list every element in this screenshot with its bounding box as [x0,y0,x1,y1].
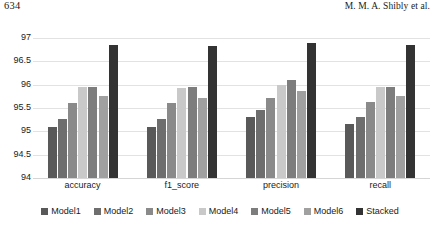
legend-label: Model5 [261,206,291,216]
bar [78,87,87,178]
legend-label: Model4 [209,206,239,216]
bar-group [232,38,331,178]
bar [266,98,275,178]
bar [177,88,186,178]
y-axis: 9796.59695.59594.594 [0,38,31,178]
bar [246,117,255,178]
legend-label: Model3 [156,206,186,216]
bar [366,102,375,178]
x-axis-tick-label: accuracy [33,180,132,196]
legend-label: Model1 [51,206,81,216]
y-axis-tick-label: 95.5 [1,102,31,112]
bar [198,98,207,178]
legend-swatch-icon [199,208,206,215]
page-number: 634 [4,0,20,11]
bar [386,87,395,178]
x-axis-category-labels: accuracyf1_scoreprecisionrecall [33,180,430,196]
bar [297,91,306,178]
bar [188,87,197,178]
legend-item[interactable]: Model6 [304,206,344,216]
bar [256,110,265,178]
bar-groups [33,38,430,178]
x-axis-tick-label: f1_score [132,180,231,196]
y-axis-tick-label: 95 [1,125,31,135]
bar [307,43,316,178]
page-running-head: 634 M. M. A. Shibly et al. [0,0,435,18]
legend-item[interactable]: Model1 [41,206,81,216]
legend-swatch-icon [356,208,363,215]
bar [99,96,108,178]
x-axis-tick-label: precision [232,180,331,196]
bar-group [331,38,430,178]
bar [208,46,217,178]
chart-legend: Model1Model2Model3Model4Model5Model6Stac… [20,202,420,220]
bar [356,117,365,178]
legend-item[interactable]: Model2 [94,206,134,216]
bar [287,80,296,178]
y-axis-tick-label: 94 [1,172,31,182]
bar [406,45,415,178]
bar [109,45,118,178]
legend-item[interactable]: Stacked [356,206,399,216]
legend-swatch-icon [94,208,101,215]
bar [277,85,286,178]
gridline [33,178,430,179]
legend-item[interactable]: Model5 [251,206,291,216]
legend-swatch-icon [304,208,311,215]
bar [376,87,385,178]
legend-label: Model6 [314,206,344,216]
legend-swatch-icon [251,208,258,215]
legend-label: Model2 [104,206,134,216]
legend-swatch-icon [41,208,48,215]
bar [58,119,67,178]
x-axis-tick-label: recall [331,180,430,196]
bar [345,124,354,178]
bar [88,87,97,178]
bar [147,127,156,178]
legend-swatch-icon [146,208,153,215]
bar-group [33,38,132,178]
bar [167,103,176,178]
bar [157,119,166,178]
y-axis-tick-label: 94.5 [1,149,31,159]
running-head-authors: M. M. A. Shibly et al. [345,1,430,11]
bar-chart: 9796.59695.59594.594 accuracyf1_scorepre… [0,28,435,232]
y-axis-tick-label: 97 [1,32,31,42]
y-axis-tick-label: 96.5 [1,55,31,65]
bar [396,96,405,178]
bar [68,103,77,178]
y-axis-tick-label: 96 [1,79,31,89]
bar-group [132,38,231,178]
legend-item[interactable]: Model4 [199,206,239,216]
bar [48,127,57,178]
legend-item[interactable]: Model3 [146,206,186,216]
legend-label: Stacked [366,206,399,216]
